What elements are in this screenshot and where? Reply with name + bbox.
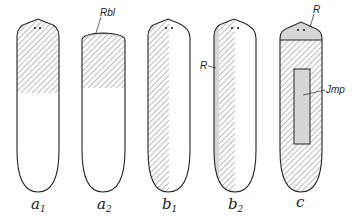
caption-a2: a2 [97,195,112,214]
label-r: R [200,60,207,71]
leader-line [96,17,101,33]
eye-icon [165,27,167,29]
eye-icon [303,29,305,31]
hatched-region [78,30,130,88]
implant-region [294,69,310,144]
eye-icon [231,27,233,29]
label-imp: Jmp [325,84,345,95]
caption-b2: b2 [228,195,244,214]
hatched-region [10,10,70,93]
eye-icon [237,27,239,29]
caption-b1: b1 [162,195,177,214]
label-r: R [313,4,320,15]
eye-icon [34,27,36,29]
panel-a1: a1 [10,10,70,214]
caption-c: c [296,193,305,211]
panel-b2: R b2 [200,15,256,214]
panel-a2: Rbl a2 [78,7,130,214]
panel-b1: b1 [144,15,190,214]
stippled-head [276,15,326,40]
eye-icon [171,27,173,29]
panel-c: R Jmp c [276,4,345,211]
leader-line [310,14,314,27]
caption-a1: a1 [31,195,46,214]
diagram-canvas: a1 Rbl a2 b1 R b2 R [0,0,362,216]
eye-icon [297,29,299,31]
label-rbl: Rbl [100,7,116,18]
eye-icon [39,27,41,29]
